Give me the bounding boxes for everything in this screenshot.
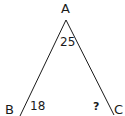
vertex-label-a: A [61,2,70,15]
vertex-label-c: C [114,103,123,116]
angle-c-unknown: ? [93,101,99,112]
vertex-label-b: B [5,103,14,116]
triangle-diagram: A 25 B 18 ? C [0,0,125,116]
angle-a-value: 25 [60,36,75,48]
triangle-lines [0,0,125,116]
angle-b-value: 18 [30,100,45,112]
